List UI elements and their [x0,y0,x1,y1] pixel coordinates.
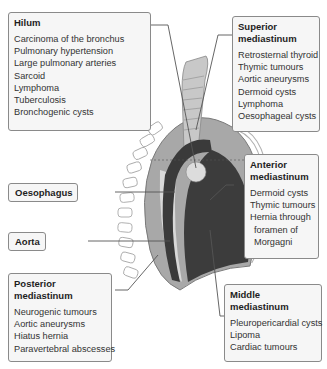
posterior-item: Aortic aneurysms [14,318,106,330]
anterior-mediastinum-box: Anterior mediastinum Dermoid cysts Thymi… [244,154,319,259]
anterior-item: Hernia through [250,211,313,223]
superior-item: Aortic aneurysms [238,73,314,85]
middle-title: Middle mediastinum [230,289,316,313]
middle-title-line1: Middle [230,289,260,300]
hilum-item: Carcinoma of the bronchus [14,33,145,45]
superior-title: Superior mediastinum [238,21,314,45]
hilum-item: Bronchogenic cysts [14,106,145,118]
middle-mediastinum-box: Middle mediastinum Pleuropericardial cys… [224,284,322,362]
posterior-title: Posterior mediastinum [14,278,106,302]
hilum-circle [186,162,206,182]
middle-item: Cardiac tumours [230,341,316,353]
anterior-item: Morgagni [250,236,313,248]
superior-item: Retrosternal thyroid [238,49,314,61]
posterior-title-line2: mediastinum [14,290,73,301]
hilum-item: Large pulmonary arteries [14,57,145,69]
superior-title-line2: mediastinum [238,33,297,44]
hilum-item: Tuberculosis [14,94,145,106]
anterior-item: Dermoid cysts [250,187,313,199]
hilum-box: Hilum Carcinoma of the bronchus Pulmonar… [8,12,151,131]
middle-item: Lipoma [230,329,316,341]
oesophagus-label-box: Oesophagus [8,183,78,202]
anterior-title: Anterior mediastinum [250,159,313,183]
hilum-item: Sarcoid [14,70,145,82]
aorta-label-box: Aorta [8,232,46,251]
aorta-label: Aorta [15,236,39,248]
superior-item: Dermoid cysts [238,86,314,98]
hilum-item: Lymphoma [14,82,145,94]
middle-title-line2: mediastinum [230,301,289,312]
superior-item: Lymphoma [238,98,314,110]
superior-title-line1: Superior [238,21,277,32]
posterior-title-line1: Posterior [14,278,56,289]
anterior-item: Thymic tumours [250,199,313,211]
anterior-title-line1: Anterior [250,159,287,170]
posterior-item: Hiatus hernia [14,330,106,342]
middle-item: Pleuropericardial cysts [230,317,316,329]
oesophagus-label: Oesophagus [15,187,71,199]
hilum-item: Pulmonary hypertension [14,45,145,57]
hilum-title: Hilum [14,17,145,29]
posterior-item: Neurogenic tumours [14,306,106,318]
superior-item: Oesophageal cysts [238,110,314,122]
anterior-item: foramen of [250,224,313,236]
superior-item: Thymic tumours [238,61,314,73]
superior-mediastinum-box: Superior mediastinum Retrosternal thyroi… [232,16,320,132]
posterior-item: Paravertebral abscesses [14,343,106,355]
posterior-mediastinum-box: Posterior mediastinum Neurogenic tumours… [8,273,112,362]
anterior-title-line2: mediastinum [250,171,309,182]
